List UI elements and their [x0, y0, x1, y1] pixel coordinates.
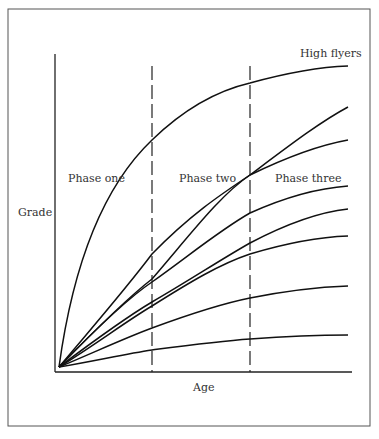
curve-6: [59, 236, 348, 367]
curve-2: [59, 107, 348, 367]
label-phase-one: Phase one: [68, 172, 125, 185]
label-phase-two: Phase two: [179, 172, 237, 185]
career-grade-diagram: High flyers Phase one Phase two Phase th…: [0, 0, 379, 439]
label-high-flyers: High flyers: [300, 47, 362, 60]
curve-7: [59, 286, 348, 367]
curve-high-flyers: [59, 66, 348, 367]
curve-8: [59, 335, 348, 367]
y-axis-label: Grade: [18, 206, 52, 219]
x-axis-label: Age: [192, 381, 215, 394]
curve-4: [59, 186, 348, 367]
label-phase-three: Phase three: [275, 172, 341, 185]
